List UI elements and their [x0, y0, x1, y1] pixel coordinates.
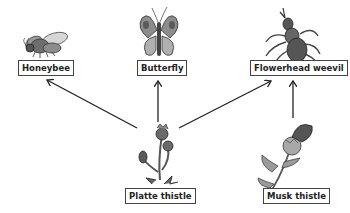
weevil-icon: [266, 8, 320, 62]
node-label-flowerhead-weevil: Flowerhead weevil: [250, 60, 348, 76]
node-label-honeybee: Honeybee: [18, 60, 74, 76]
node-label-musk-thistle: Musk thistle: [263, 188, 330, 204]
node-label-butterfly: Butterfly: [137, 60, 187, 76]
platte-thistle-icon: [139, 124, 178, 184]
illustrations-layer: [0, 0, 350, 213]
honeybee-icon: [23, 30, 69, 58]
butterfly-icon: [140, 7, 178, 56]
node-label-platte-thistle: Platte thistle: [125, 188, 196, 204]
